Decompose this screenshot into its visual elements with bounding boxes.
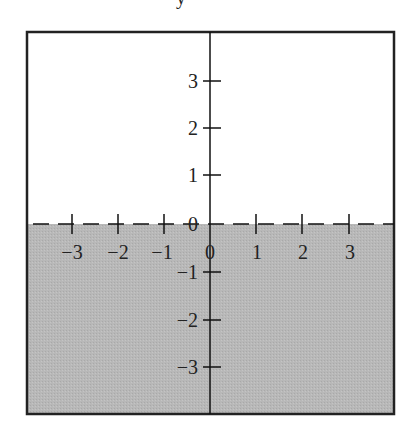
- y-tick-label: 2: [188, 117, 198, 139]
- y-tick-label: −1: [177, 261, 198, 283]
- x-tick-label: −1: [151, 241, 172, 263]
- y-tick-label-origin: 0: [188, 213, 198, 235]
- y-tick-label: −3: [177, 356, 198, 378]
- x-tick-label: 0: [205, 241, 215, 263]
- x-tick-label: 1: [252, 241, 262, 263]
- y-tick-label: −2: [177, 309, 198, 331]
- inequality-graph: y −3 −2 −1 0 1 2 3 3 2 1 0: [0, 0, 412, 437]
- x-tick-label: 3: [345, 241, 355, 263]
- y-tick-label: 3: [188, 70, 198, 92]
- y-axis-label: y: [176, 0, 186, 9]
- x-tick-label: 2: [298, 241, 308, 263]
- x-tick-label: −3: [61, 241, 82, 263]
- y-tick-label: 1: [188, 164, 198, 186]
- x-tick-label: −2: [107, 241, 128, 263]
